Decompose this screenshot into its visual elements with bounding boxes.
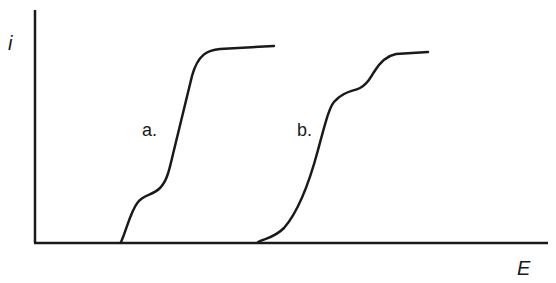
diagram: i E a. b. [0, 0, 556, 283]
curve-b [258, 52, 428, 242]
curve-b-label: b. [297, 120, 312, 141]
y-axis-label: i [8, 32, 12, 55]
diagram-canvas [0, 0, 556, 283]
curve-a-label: a. [142, 120, 157, 141]
x-axis-label: E [517, 257, 530, 280]
curve-a [121, 46, 274, 242]
